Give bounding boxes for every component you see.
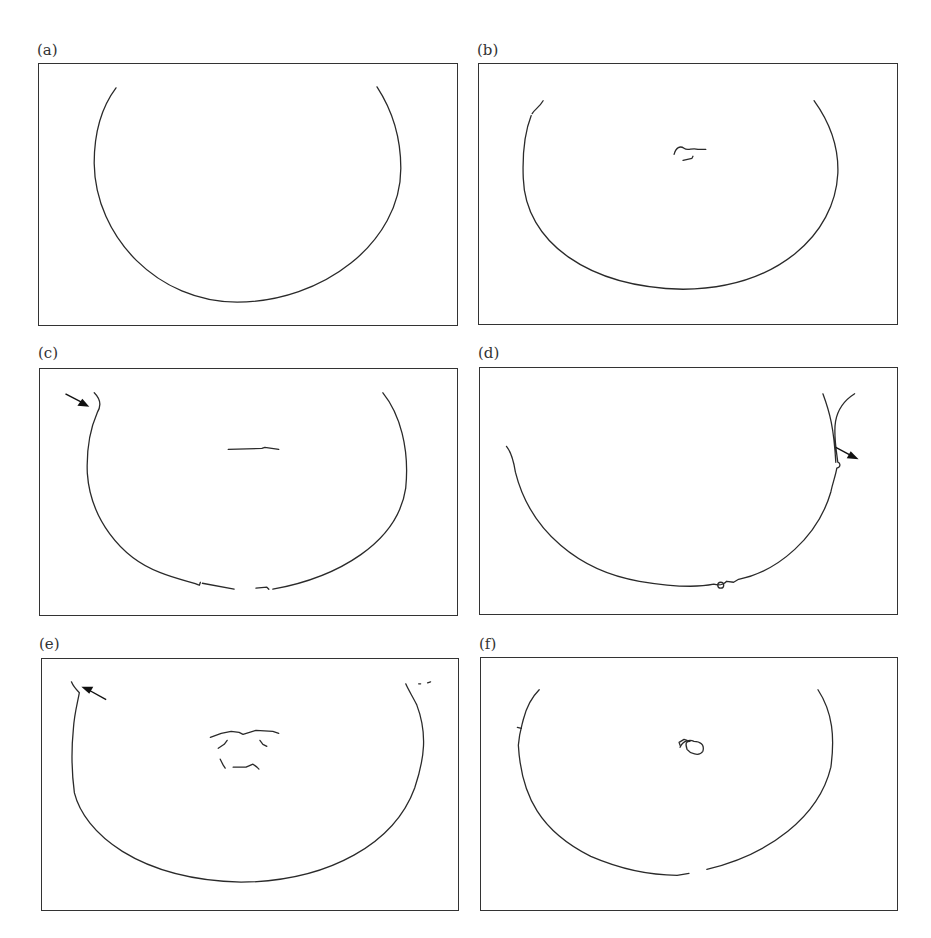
panel-label-a: (a)	[37, 42, 58, 58]
panel-d	[479, 367, 898, 615]
panel-e	[41, 658, 459, 911]
panel-f	[480, 657, 898, 911]
center-fragment	[210, 730, 278, 737]
center-loop	[680, 740, 703, 754]
center-fragment	[220, 759, 225, 768]
panel-b	[478, 63, 898, 325]
contour-curve	[523, 101, 838, 290]
contour-plot-a	[39, 64, 457, 325]
center-fragment	[683, 156, 693, 160]
panel-c	[39, 368, 458, 616]
contour-plot-f	[481, 658, 897, 910]
contour-curve-bottom	[256, 587, 269, 589]
contour-plot-b	[479, 64, 897, 324]
contour-curve-right	[707, 690, 833, 870]
contour-curve	[71, 682, 423, 882]
panel-label-d: (d)	[478, 345, 499, 361]
contour-plot-e	[42, 659, 458, 910]
contour-curve	[94, 87, 401, 302]
panel-label-c: (c)	[38, 345, 58, 361]
arrow-icon	[81, 687, 106, 700]
center-fragment	[218, 740, 227, 748]
center-fragment	[260, 740, 267, 746]
center-fragment	[233, 764, 259, 769]
panel-label-e: (e)	[39, 636, 60, 652]
top-right-fragment	[428, 682, 431, 683]
panel-a	[38, 63, 458, 326]
panel-label-f: (f)	[479, 636, 496, 652]
contour-curve-left	[87, 393, 200, 585]
arrow-icon	[65, 394, 89, 407]
arrow-icon	[836, 447, 859, 459]
center-fragment	[674, 147, 706, 154]
contour-plot-d	[480, 368, 897, 614]
cropped-caption-fragment	[0, 0, 931, 4]
contour-curve-left	[518, 690, 689, 876]
contour-plot-c	[40, 369, 457, 615]
contour-curve-right	[273, 393, 407, 589]
panel-label-b: (b)	[477, 42, 498, 58]
center-segment	[228, 447, 279, 449]
contour-curve	[506, 394, 854, 587]
contour-curve-bottom	[202, 583, 234, 589]
